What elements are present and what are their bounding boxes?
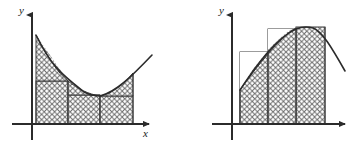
x-axis-label: x	[142, 127, 148, 139]
right-panel: y	[212, 4, 345, 140]
left-panel: y x	[12, 4, 152, 140]
rectangle	[68, 95, 100, 124]
rectangle	[36, 81, 68, 124]
y-axis-label: y	[18, 4, 24, 16]
riemann-sum-figure: y x	[0, 0, 348, 147]
curve-gap-region	[100, 73, 133, 96]
y-axis-label: y	[218, 4, 224, 16]
figure-canvas: y x	[0, 0, 348, 147]
rectangle	[100, 96, 133, 124]
rectangle	[296, 27, 325, 124]
